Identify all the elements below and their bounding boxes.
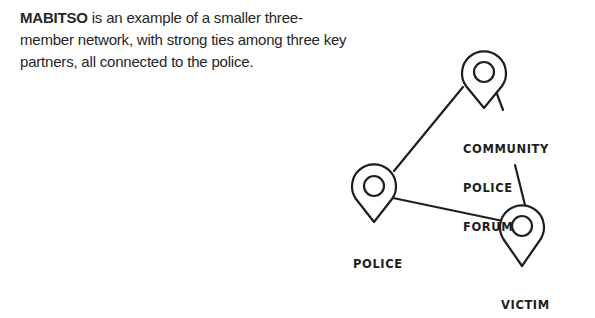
label-line: POLICE xyxy=(353,258,403,271)
node-label-victim-support-services: VICTIM SUPPORT SERVICES xyxy=(501,273,569,318)
map-pin-icon xyxy=(352,164,396,222)
label-line: POLICE xyxy=(463,182,549,195)
label-line: FORUM xyxy=(463,221,549,234)
label-line: COMMUNITY xyxy=(463,143,549,156)
node-label-community-police-forum: COMMUNITY POLICE FORUM xyxy=(463,117,549,247)
label-line: VICTIM xyxy=(501,299,569,312)
edge-cpf-vss-upper xyxy=(497,94,503,110)
node-label-police: POLICE xyxy=(353,232,403,284)
edge-cpf-police xyxy=(394,87,463,171)
